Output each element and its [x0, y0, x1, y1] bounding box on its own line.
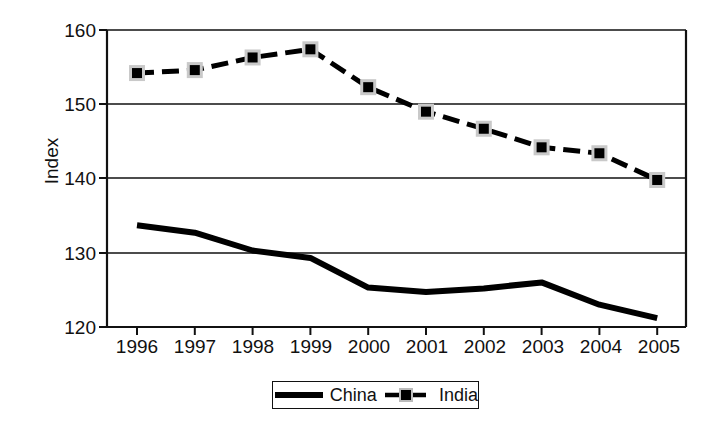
legend-swatch-china: [273, 388, 323, 402]
marker-india-1996: [131, 67, 144, 80]
marker-india-2001: [420, 105, 433, 118]
marker-india-2003: [535, 141, 548, 154]
chart-legend: China India: [272, 381, 479, 409]
marker-india-2000: [362, 81, 375, 94]
marker-india-1998: [246, 51, 259, 64]
marker-india-2005: [651, 173, 664, 186]
marker-india-2004: [593, 147, 606, 160]
marker-india-2002: [477, 122, 490, 135]
plot-area: [0, 0, 715, 428]
legend-swatch-india: [384, 387, 432, 403]
marker-india-1999: [304, 43, 317, 56]
series-india: [131, 43, 664, 187]
line-china: [137, 225, 657, 318]
x-tick-marks: [137, 327, 657, 335]
marker-india-1997: [188, 64, 201, 77]
legend-label-india: India: [439, 386, 478, 404]
chart-figure: Index 160 150 140 130 120 1996 1997 1998…: [0, 0, 715, 428]
series-china: [137, 225, 657, 318]
line-india: [137, 49, 657, 180]
legend-label-china: China: [330, 386, 377, 404]
y-tick-marks: [99, 30, 107, 327]
